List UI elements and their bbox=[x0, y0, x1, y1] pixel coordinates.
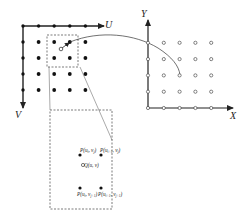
target-grid-point bbox=[146, 106, 149, 109]
target-grid-point bbox=[194, 58, 197, 61]
zoom-line-left bbox=[49, 67, 50, 110]
label-q: Q(u, v) bbox=[84, 162, 99, 169]
source-grid-point bbox=[21, 72, 24, 75]
source-grid: U V bbox=[15, 19, 113, 120]
target-grid-point bbox=[162, 41, 165, 44]
target-grid-point bbox=[162, 74, 165, 77]
zoom-line-right bbox=[80, 67, 112, 140]
source-grid-point bbox=[68, 24, 71, 27]
source-grid-point bbox=[84, 40, 88, 44]
interpolation-inset: P(ui, vj) P(ui+1, vj) Q(u, v) P(ui, vj+1… bbox=[50, 110, 123, 209]
target-grid-point bbox=[178, 41, 181, 44]
source-grid-point bbox=[68, 72, 72, 76]
source-grid-point bbox=[84, 88, 88, 92]
label-p-tr: P(ui+1, vj) bbox=[99, 147, 120, 154]
target-grid-point bbox=[194, 90, 197, 93]
point-p-tr bbox=[99, 153, 102, 156]
target-grid-point bbox=[210, 58, 213, 61]
target-grid-point bbox=[146, 58, 149, 61]
source-grid-point bbox=[21, 40, 24, 43]
target-grid-point bbox=[210, 90, 213, 93]
point-p-bl bbox=[78, 186, 81, 189]
source-grid-point bbox=[84, 72, 88, 76]
source-grid-points bbox=[21, 24, 87, 92]
target-grid-point bbox=[178, 106, 181, 109]
source-grid-point bbox=[68, 56, 72, 60]
source-grid-point bbox=[52, 40, 56, 44]
u-axis-label: U bbox=[105, 19, 113, 30]
interpolation-diagram: U V Y X P(ui, vj) P(ui+1, vj) Q(u, v bbox=[0, 0, 250, 217]
source-grid-point bbox=[68, 88, 72, 92]
target-grid-point bbox=[146, 90, 149, 93]
target-grid-point bbox=[162, 58, 165, 61]
source-grid-point bbox=[84, 56, 88, 60]
v-axis-label: V bbox=[15, 109, 23, 120]
target-grid-point bbox=[210, 74, 213, 77]
target-grid-points bbox=[146, 41, 212, 109]
selection-box bbox=[47, 35, 78, 67]
target-grid-point bbox=[146, 41, 149, 44]
target-grid-point bbox=[210, 106, 213, 109]
sample-point-q bbox=[59, 47, 63, 51]
target-grid-point bbox=[146, 74, 149, 77]
target-grid-point bbox=[194, 74, 197, 77]
source-grid-point bbox=[37, 88, 41, 92]
source-grid-point bbox=[37, 24, 40, 27]
target-grid-point bbox=[178, 90, 181, 93]
point-p-br bbox=[99, 186, 102, 189]
target-grid-point bbox=[194, 41, 197, 44]
source-grid-point bbox=[52, 88, 56, 92]
source-grid-point bbox=[52, 72, 56, 76]
sample-arrow bbox=[62, 43, 69, 48]
target-grid-point bbox=[194, 106, 197, 109]
source-grid-point bbox=[21, 88, 24, 91]
source-grid-point bbox=[21, 24, 24, 27]
source-grid-point bbox=[37, 40, 41, 44]
source-grid-point bbox=[21, 56, 24, 59]
source-grid-point bbox=[84, 24, 87, 27]
x-axis-label: X bbox=[229, 110, 237, 121]
y-axis-label: Y bbox=[141, 8, 148, 19]
target-grid-point bbox=[162, 106, 165, 109]
label-p-tl: P(ui, vj) bbox=[79, 147, 96, 154]
target-grid: Y X bbox=[141, 8, 237, 121]
target-grid-point bbox=[162, 90, 165, 93]
source-grid-point bbox=[53, 24, 56, 27]
source-grid-point bbox=[52, 56, 56, 60]
target-grid-point bbox=[178, 58, 181, 61]
point-p-tl bbox=[78, 153, 81, 156]
source-grid-point bbox=[37, 56, 41, 60]
label-p-bl: P(ui, vj+1) bbox=[76, 191, 97, 198]
label-p-br: P(ui+1, vj+1) bbox=[97, 191, 123, 198]
target-grid-point bbox=[178, 74, 181, 77]
source-grid-point bbox=[37, 72, 41, 76]
target-grid-point bbox=[210, 41, 213, 44]
